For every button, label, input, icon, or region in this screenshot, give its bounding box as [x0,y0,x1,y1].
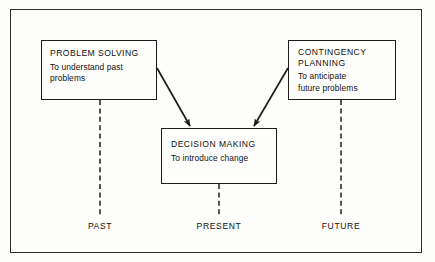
node-decision-making: DECISION MAKING To introduce change [161,128,277,184]
node-contingency-planning-description: To anticipate future problems [298,71,395,93]
node-problem-solving-description: To understand past problems [50,62,156,84]
node-problem-solving-title: PROBLEM SOLVING [50,48,156,59]
node-contingency-planning-title: CONTINGENCY PLANNING [298,47,395,68]
node-decision-making-title: DECISION MAKING [171,139,276,150]
node-contingency-planning: CONTINGENCY PLANNING To anticipate futur… [288,40,396,100]
arrow-problem-solving-to-decision-making [157,68,190,126]
diagram-root: PROBLEM SOLVING To understand past probl… [0,0,435,262]
arrow-contingency-planning-to-decision-making [254,68,288,126]
node-problem-solving: PROBLEM SOLVING To understand past probl… [41,40,157,100]
timeline-label-past: PAST [88,221,112,231]
timeline-label-future: FUTURE [322,221,360,231]
timeline-label-present: PRESENT [197,221,242,231]
node-decision-making-description: To introduce change [171,153,276,164]
